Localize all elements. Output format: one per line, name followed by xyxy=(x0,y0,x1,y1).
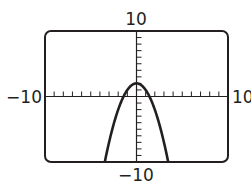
xmax-label: 10 xyxy=(232,87,251,107)
xmin-label: −10 xyxy=(6,87,42,107)
graph-window: 10 −10 −10 10 xyxy=(0,0,251,185)
ymax-label: 10 xyxy=(125,9,147,29)
ymin-label: −10 xyxy=(118,165,154,185)
